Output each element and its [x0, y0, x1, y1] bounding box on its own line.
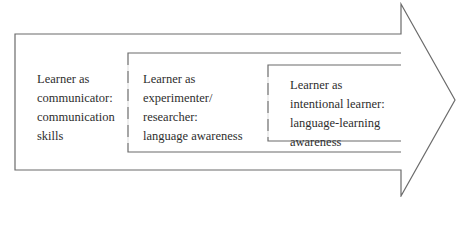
stage-2-line-3: researcher:	[143, 108, 243, 127]
stage-1-line-4: skills	[37, 127, 115, 146]
stage-2-line-1: Learner as	[143, 70, 243, 89]
stage-label-intentional-learner: Learner as intentional learner: language…	[290, 76, 385, 152]
stage-1-line-3: communication	[37, 108, 115, 127]
stage-3-line-4: awareness	[290, 133, 385, 152]
stage-3-line-3: language-learning	[290, 114, 385, 133]
stage-1-line-1: Learner as	[37, 70, 115, 89]
stage-2-line-4: language awareness	[143, 127, 243, 146]
stage-3-line-1: Learner as	[290, 76, 385, 95]
stage-2-line-2: experimenter/	[143, 89, 243, 108]
stage-label-communicator: Learner as communicator: communication s…	[37, 70, 115, 146]
stage-label-experimenter: Learner as experimenter/ researcher: lan…	[143, 70, 243, 146]
stage-1-line-2: communicator:	[37, 89, 115, 108]
stage-3-line-2: intentional learner:	[290, 95, 385, 114]
